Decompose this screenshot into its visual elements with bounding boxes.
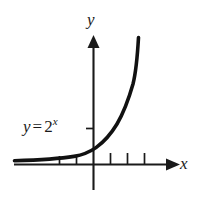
curve-equation-label: y=2x — [23, 118, 58, 135]
equation-lhs: y — [23, 117, 31, 136]
equation-exponent: x — [53, 115, 58, 127]
equation-base: 2 — [44, 117, 53, 136]
graph-canvas — [0, 0, 201, 201]
equation-operator: = — [31, 117, 45, 136]
exponential-curve — [15, 38, 139, 161]
y-axis-arrow-icon — [88, 35, 100, 48]
x-axis-arrow-icon — [166, 159, 180, 171]
y-axis-label: y — [87, 11, 95, 28]
exponential-function-figure: y x y=2x — [0, 0, 201, 201]
x-axis-label: x — [180, 155, 188, 172]
